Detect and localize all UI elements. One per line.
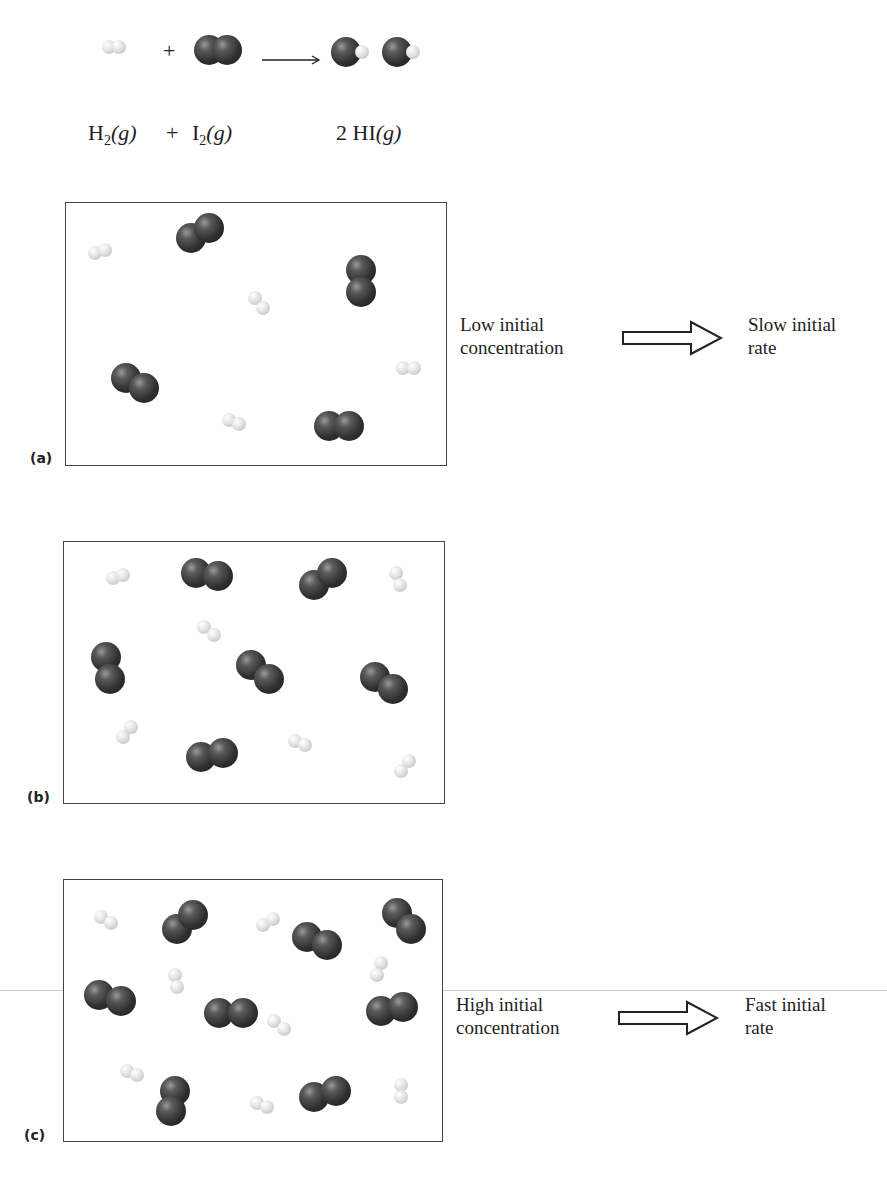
- plus-sign: +: [163, 38, 175, 64]
- h2-subscript: 2: [104, 133, 111, 148]
- caption-line: concentration: [456, 1016, 559, 1039]
- product-hi-label: 2 HI(g): [336, 120, 401, 146]
- caption-line: Slow initial: [748, 313, 836, 336]
- hi-state: (g): [376, 120, 402, 145]
- hollow-arrow-icon: [617, 1000, 721, 1040]
- caption-line: Low initial: [460, 313, 563, 336]
- caption-line: Fast initial: [745, 993, 826, 1016]
- panel-a-caption-left: Low initial concentration: [460, 313, 563, 359]
- caption-line: rate: [745, 1016, 826, 1039]
- hollow-arrow-icon: [621, 320, 725, 360]
- panel-a-label: (a): [30, 450, 52, 466]
- panel-c-label: (c): [24, 1127, 45, 1143]
- caption-line: rate: [748, 336, 836, 359]
- panel-a-caption-right: Slow initial rate: [748, 313, 836, 359]
- caption-line: High initial: [456, 993, 559, 1016]
- reactant-i2-label: I2(g): [192, 120, 232, 149]
- reactant-h2-label: H2(g): [88, 120, 137, 149]
- h2-symbol: H: [88, 120, 104, 145]
- caption-line: concentration: [460, 336, 563, 359]
- panel-c-box: [63, 879, 443, 1142]
- panel-c-caption-right: Fast initial rate: [745, 993, 826, 1039]
- i2-state: (g): [206, 120, 232, 145]
- equation-plus: +: [166, 120, 178, 146]
- panel-a-box: [65, 202, 447, 466]
- panel-c-caption-left: High initial concentration: [456, 993, 559, 1039]
- hi-coefficient: 2: [336, 120, 347, 145]
- hi-symbol: HI: [353, 120, 376, 145]
- panel-b-box: [63, 541, 445, 804]
- reaction-arrow-icon: [262, 51, 322, 69]
- panel-b-label: (b): [27, 789, 50, 805]
- h2-state: (g): [111, 120, 137, 145]
